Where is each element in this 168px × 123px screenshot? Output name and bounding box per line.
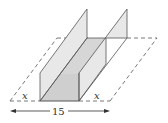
width-label: 15: [52, 106, 65, 117]
left-fold-label: x: [22, 90, 28, 101]
right-fold-label: x: [94, 90, 100, 101]
gutter-diagram: x x 15: [0, 0, 168, 123]
